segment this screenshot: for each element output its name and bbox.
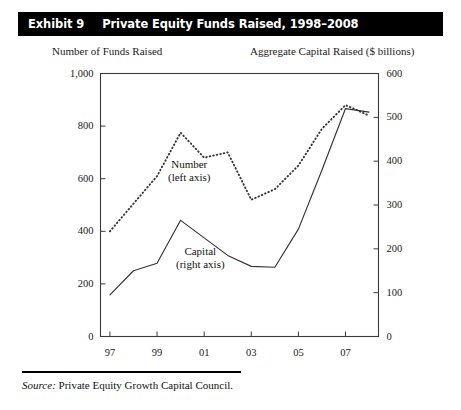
exhibit-title-bar: Exhibit 9 Private Equity Funds Raised, 1… [18, 12, 443, 36]
footer-divider [22, 371, 241, 373]
x-axis-tick-label: 07 [331, 347, 361, 358]
right-axis-tick-label: 600 [387, 68, 427, 79]
left-axis-caption: Number of Funds Raised [52, 45, 162, 57]
exhibit-card: Exhibit 9 Private Equity Funds Raised, 1… [0, 0, 461, 410]
left-axis-tick-label: 400 [49, 225, 94, 236]
series-annotation-capital-line1: Capital [176, 245, 225, 258]
source-text: Private Equity Growth Capital Council. [56, 379, 233, 391]
right-axis-tick-label: 300 [387, 199, 427, 210]
exhibit-number: Exhibit 9 [28, 17, 84, 31]
series-annotation-capital-line2: (right axis) [176, 258, 225, 271]
axis-ticks [101, 74, 379, 337]
x-axis-tick-label: 97 [95, 347, 125, 358]
series-annotation-number-line1: Number [168, 158, 210, 171]
x-axis-tick-label: 01 [189, 347, 219, 358]
left-axis-tick-label: 1,000 [49, 68, 94, 79]
series-annotation-number-line2: (left axis) [168, 171, 210, 184]
left-axis-tick-label: 0 [49, 331, 94, 342]
left-axis-tick-label: 600 [49, 173, 94, 184]
left-axis-tick-label: 200 [49, 278, 94, 289]
exhibit-title: Private Equity Funds Raised, 1998–2008 [102, 17, 358, 31]
series-annotation-capital: Capital (right axis) [176, 245, 225, 271]
series-annotation-number: Number (left axis) [168, 158, 210, 184]
x-axis-tick-label: 99 [142, 347, 172, 358]
source-label: Source: [22, 379, 56, 391]
source-note: Source: Private Equity Growth Capital Co… [22, 379, 233, 391]
right-axis-tick-label: 200 [387, 243, 427, 254]
left-axis-tick-label: 800 [49, 120, 94, 131]
right-axis-tick-label: 0 [387, 331, 427, 342]
right-axis-tick-label: 500 [387, 111, 427, 122]
series-line-number [110, 105, 369, 231]
plot-frame [101, 74, 379, 337]
series-line-capital [110, 109, 369, 295]
x-axis-tick-label: 05 [283, 347, 313, 358]
right-axis-caption: Aggregate Capital Raised ($ billions) [250, 45, 414, 57]
data-series [110, 105, 369, 295]
x-axis-tick-label: 03 [236, 347, 266, 358]
right-axis-tick-label: 400 [387, 155, 427, 166]
right-axis-tick-label: 100 [387, 287, 427, 298]
